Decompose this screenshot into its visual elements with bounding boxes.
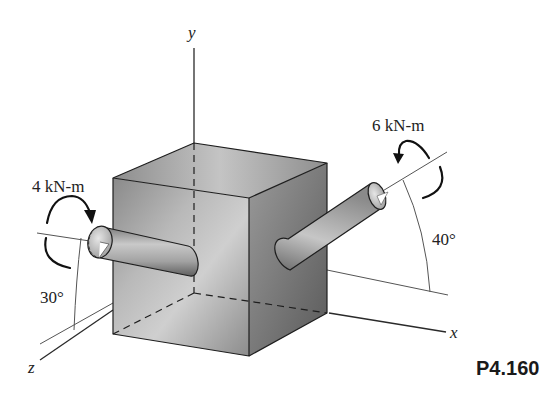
right-angle-label: 40°	[432, 230, 456, 249]
z-axis	[40, 310, 113, 360]
right-ref-line	[376, 152, 447, 195]
left-horizontal-line	[40, 303, 113, 344]
left-angle-arc	[74, 238, 81, 330]
right-couple-label: 6 kN-m	[372, 116, 424, 135]
left-couple-arc-bottom	[45, 238, 70, 268]
x-axis-label: x	[449, 323, 458, 342]
left-couple-arrowhead	[84, 210, 96, 224]
right-couple-arrowhead	[393, 153, 404, 164]
x-axis	[329, 313, 446, 332]
right-couple-arc-bottom	[423, 167, 442, 198]
left-couple-arrow: 4 kN-m	[32, 177, 96, 268]
problem-label: P4.160	[476, 357, 539, 379]
left-couple-arc-top	[47, 196, 90, 223]
y-axis-label: y	[186, 23, 196, 42]
z-axis-label: z	[27, 358, 35, 377]
right-couple-arrow: 6 kN-m	[372, 116, 442, 198]
left-angle-label: 30°	[40, 288, 64, 307]
right-couple-arc-top	[399, 141, 429, 158]
left-couple-label: 4 kN-m	[32, 177, 84, 196]
problem-figure: y z x 30° 40°	[0, 0, 550, 406]
